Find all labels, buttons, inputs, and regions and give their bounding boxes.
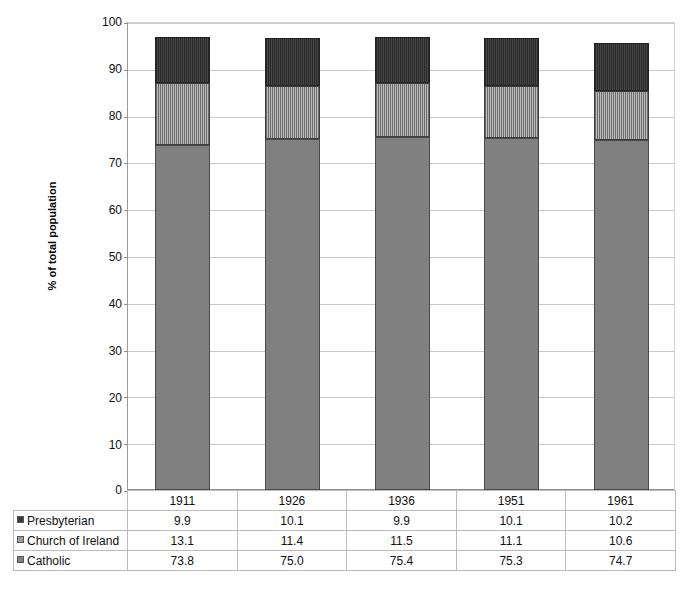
bar-segment-catholic-1926: [265, 139, 320, 490]
legend-label-church-of-ireland: Church of Ireland: [27, 534, 119, 548]
bar-segment-church-of-ireland-1911: [155, 83, 210, 144]
cell-presbyterian-1911: 9.9: [128, 511, 238, 531]
y-axis-title: % of total population: [46, 136, 58, 336]
plot-area: [127, 22, 675, 490]
bar-segment-presbyterian-1961: [594, 43, 649, 91]
bar-group-1951: [484, 22, 539, 490]
table-row: Catholic 73.8 75.0 75.4 75.3 74.7: [14, 551, 676, 571]
table-corner-cell: [14, 491, 128, 511]
y-tick-label-60: 60: [92, 204, 122, 216]
table-header-1961: 1961: [566, 491, 676, 511]
bar-group-1926: [265, 22, 320, 490]
y-tick-60: [124, 210, 128, 211]
table-header-1936: 1936: [347, 491, 457, 511]
legend-label-presbyterian: Presbyterian: [27, 514, 94, 528]
y-tick-label-20: 20: [92, 392, 122, 404]
y-tick-40: [124, 304, 128, 305]
cell-presbyterian-1961: 10.2: [566, 511, 676, 531]
cell-church-of-ireland-1911: 13.1: [128, 531, 238, 551]
y-tick-100: [124, 23, 128, 24]
bar-segment-church-of-ireland-1936: [375, 83, 430, 137]
cell-church-of-ireland-1951: 11.1: [456, 531, 566, 551]
bar-segment-church-of-ireland-1961: [594, 91, 649, 141]
cell-catholic-1911: 73.8: [128, 551, 238, 571]
bar-segment-catholic-1961: [594, 140, 649, 490]
cell-catholic-1936: 75.4: [347, 551, 457, 571]
table-row: Church of Ireland 13.1 11.4 11.5 11.1 10…: [14, 531, 676, 551]
legend-label-catholic: Catholic: [27, 554, 70, 568]
catholic-swatch-icon: [17, 556, 24, 563]
presbyterian-swatch-icon: [17, 516, 24, 523]
cell-presbyterian-1936: 9.9: [347, 511, 457, 531]
y-tick-90: [124, 70, 128, 71]
y-tick-label-40: 40: [92, 298, 122, 310]
y-tick-50: [124, 257, 128, 258]
data-table: 1911 1926 1936 1951 1961 Presbyterian 9.…: [13, 490, 676, 571]
bar-group-1911: [155, 22, 210, 490]
cell-catholic-1951: 75.3: [456, 551, 566, 571]
y-tick-70: [124, 163, 128, 164]
cell-catholic-1961: 74.7: [566, 551, 676, 571]
y-tick-80: [124, 117, 128, 118]
bar-group-1936: [375, 22, 430, 490]
chart-page: % of total population 100 90 80 70 60 50…: [0, 0, 696, 595]
table-row: Presbyterian 9.9 10.1 9.9 10.1 10.2: [14, 511, 676, 531]
y-tick-10: [124, 444, 128, 445]
y-tick-30: [124, 351, 128, 352]
y-tick-label-50: 50: [92, 251, 122, 263]
y-tick-label-10: 10: [92, 439, 122, 451]
y-tick-label-100: 100: [92, 16, 122, 28]
bar-segment-presbyterian-1951: [484, 38, 539, 85]
cell-church-of-ireland-1936: 11.5: [347, 531, 457, 551]
bar-segment-church-of-ireland-1951: [484, 86, 539, 138]
y-tick-label-70: 70: [92, 157, 122, 169]
cell-catholic-1926: 75.0: [237, 551, 347, 571]
bar-segment-catholic-1936: [375, 137, 430, 490]
cell-presbyterian-1926: 10.1: [237, 511, 347, 531]
church-of-ireland-swatch-icon: [17, 536, 24, 543]
table-header-1911: 1911: [128, 491, 238, 511]
y-tick-label-30: 30: [92, 345, 122, 357]
bar-segment-catholic-1911: [155, 145, 210, 490]
bar-group-1961: [594, 22, 649, 490]
cell-church-of-ireland-1926: 11.4: [237, 531, 347, 551]
bar-segment-presbyterian-1911: [155, 37, 210, 83]
table-header-row: 1911 1926 1936 1951 1961: [14, 491, 676, 511]
cell-presbyterian-1951: 10.1: [456, 511, 566, 531]
legend-row-presbyterian: Presbyterian: [14, 511, 128, 531]
bar-segment-presbyterian-1936: [375, 37, 430, 83]
bar-segment-church-of-ireland-1926: [265, 86, 320, 139]
table-header-1926: 1926: [237, 491, 347, 511]
y-tick-20: [124, 397, 128, 398]
y-tick-label-80: 80: [92, 110, 122, 122]
bar-segment-catholic-1951: [484, 138, 539, 490]
bar-segment-presbyterian-1926: [265, 38, 320, 85]
cell-church-of-ireland-1961: 10.6: [566, 531, 676, 551]
legend-row-church-of-ireland: Church of Ireland: [14, 531, 128, 551]
table-header-1951: 1951: [456, 491, 566, 511]
legend-row-catholic: Catholic: [14, 551, 128, 571]
y-tick-label-90: 90: [92, 63, 122, 75]
